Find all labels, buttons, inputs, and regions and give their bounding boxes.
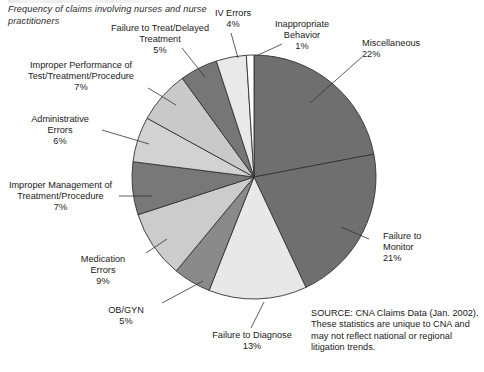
slice-label-failure-to-monitor: Failure to Monitor 21% bbox=[383, 231, 479, 265]
slice-label-inappropriate-behavior: Inappropriate Behavior 1% bbox=[262, 19, 342, 53]
slice-label-failure-to-treat: Failure to Treat/Delayed Treatment 5% bbox=[98, 23, 222, 57]
slice-label-medication-errors: Medication Errors 9% bbox=[62, 254, 144, 288]
slice-label-ob-gyn: OB/GYN 5% bbox=[93, 305, 159, 327]
slice-label-administrative-errors: Administrative Errors 6% bbox=[20, 114, 100, 148]
slice-label-failure-to-diagnose: Failure to Diagnose 13% bbox=[192, 330, 312, 352]
slice-label-improper-performance: Improper Performance of Test/Treatment/P… bbox=[16, 60, 146, 94]
source-note: SOURCE: CNA Claims Data (Jan. 2002). The… bbox=[311, 308, 481, 354]
chart-page: Frequency of claims involving nurses and… bbox=[0, 0, 484, 372]
slice-label-miscellaneous: Miscellaneous 22% bbox=[362, 38, 480, 60]
slice-label-iv-errors: IV Errors 4% bbox=[205, 8, 261, 30]
leader-line-failure-to-diagnose bbox=[251, 302, 264, 328]
leader-line-ob-gyn bbox=[162, 281, 203, 303]
leader-line-iv-errors bbox=[231, 33, 238, 58]
slice-label-improper-management: Improper Management of Treatment/Procedu… bbox=[4, 180, 117, 214]
pie-slice-group bbox=[132, 55, 376, 299]
